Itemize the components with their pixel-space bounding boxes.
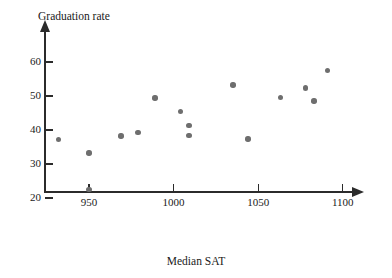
y-tick-label-text: 40 <box>1 124 41 135</box>
x-axis-arrow-icon <box>352 187 364 197</box>
y-tick-mark <box>45 61 53 62</box>
y-tick-mark <box>45 163 53 164</box>
x-tick-label: 950 <box>59 196 119 208</box>
y-axis-arrow-icon <box>40 20 50 32</box>
data-point <box>303 85 308 90</box>
y-tick-mark <box>45 197 53 198</box>
x-axis-title: Median SAT <box>0 255 392 267</box>
data-point <box>325 68 330 73</box>
y-axis-line <box>44 30 46 192</box>
data-point <box>311 98 316 103</box>
y-tick-mark <box>45 129 53 130</box>
x-tick-label: 1050 <box>228 196 288 208</box>
scatter-plot: Graduation rate 2030405060 9501000105011… <box>0 0 392 278</box>
y-tick-label-text: 60 <box>1 56 41 67</box>
x-tick-mark <box>342 184 343 192</box>
data-point <box>186 133 191 138</box>
y-tick-label-text: 30 <box>1 158 41 169</box>
x-tick-mark <box>173 184 174 192</box>
y-tick-label: 30 <box>0 158 41 169</box>
data-point <box>135 130 140 135</box>
data-point <box>278 95 283 100</box>
x-tick-mark <box>258 184 259 192</box>
data-point <box>178 109 183 114</box>
data-point <box>152 95 157 100</box>
y-tick-label: 60 <box>0 56 41 67</box>
data-point <box>186 123 191 128</box>
y-tick-mark <box>45 95 53 96</box>
y-tick-label: 20 <box>0 192 41 203</box>
x-tick-label: 1100 <box>313 196 373 208</box>
x-tick-label: 1000 <box>144 196 204 208</box>
data-point <box>118 133 123 138</box>
y-tick-label: 50 <box>0 90 41 101</box>
y-tick-label-text: 50 <box>1 90 41 101</box>
data-point <box>230 82 235 87</box>
y-tick-label: 40 <box>0 124 41 135</box>
data-point <box>86 150 91 155</box>
y-tick-label-text: 20 <box>1 192 41 203</box>
data-point <box>56 137 61 142</box>
data-point <box>86 187 91 192</box>
data-point <box>245 136 250 141</box>
